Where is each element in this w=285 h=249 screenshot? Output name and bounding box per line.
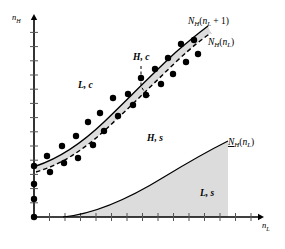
data-point — [158, 81, 164, 87]
data-point — [115, 113, 121, 119]
data-point — [138, 75, 144, 81]
data-point — [61, 160, 67, 166]
upper-shaded-band — [36, 26, 211, 172]
data-point — [31, 181, 37, 187]
y-axis-arrowhead — [31, 14, 37, 20]
upper-dashed-curve-label: NH(nL) — [207, 37, 234, 48]
data-point — [195, 51, 201, 57]
data-point — [31, 214, 37, 220]
lower-solid-curve-label: NH(nL) — [227, 137, 254, 148]
data-point — [125, 91, 131, 97]
data-point — [31, 163, 37, 169]
region-L-c: L, c — [77, 80, 94, 90]
data-point — [31, 196, 37, 202]
lower-shaded-region — [63, 141, 228, 217]
data-point — [152, 66, 158, 72]
data-point — [85, 119, 91, 125]
figure-root: nL nH L, cH, cH, sL, s NH(nL + 1)NH(nL)N… — [0, 0, 285, 249]
data-point — [170, 71, 176, 77]
data-point — [143, 92, 149, 98]
data-point — [90, 142, 96, 148]
data-point — [59, 143, 65, 149]
region-L-s: L, s — [199, 188, 215, 198]
data-point — [44, 153, 50, 159]
phase-diagram-svg: nL nH L, cH, cH, sL, s NH(nL + 1)NH(nL)N… — [0, 0, 285, 249]
data-point — [47, 169, 53, 175]
x-axis-label: nL — [262, 220, 270, 232]
data-point — [191, 37, 197, 43]
data-point — [165, 55, 171, 61]
region-H-s: H, s — [146, 133, 163, 143]
y-axis-label: nH — [12, 12, 21, 24]
data-point — [97, 110, 103, 116]
data-point — [75, 155, 81, 161]
data-point — [130, 102, 136, 108]
data-point — [101, 128, 107, 134]
data-point — [178, 41, 184, 47]
upper-solid-curve-label: NH(nL + 1) — [187, 16, 229, 27]
data-point — [110, 95, 116, 101]
data-point — [183, 59, 189, 65]
region-H-c: H, c — [132, 52, 150, 62]
data-point — [73, 133, 79, 139]
